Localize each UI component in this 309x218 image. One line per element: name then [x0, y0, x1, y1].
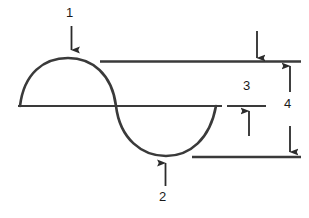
reference-lines [18, 62, 301, 158]
wave-diagram: 1 2 3 4 [0, 0, 309, 218]
wave-diagram-graphic [0, 0, 309, 218]
callout-label-3: 3 [243, 79, 250, 92]
callout-label-2: 2 [159, 190, 166, 203]
callout-label-4: 4 [284, 97, 291, 110]
callout-label-1: 1 [66, 6, 73, 19]
